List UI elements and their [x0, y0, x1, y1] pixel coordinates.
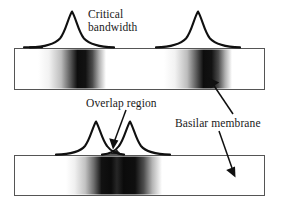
excitation-band-top-right	[164, 50, 232, 89]
figure-basilar-membrane-critical-bandwidth: Critical bandwidth Overlap region Basila…	[0, 0, 283, 204]
label-critical-bandwidth: Critical bandwidth	[88, 8, 137, 33]
label-overlap-region: Overlap region	[86, 97, 157, 110]
label-basilar-membrane: Basilar membrane	[175, 117, 261, 130]
label-critical-bandwidth-line1: Critical	[88, 8, 137, 21]
excitation-curve-top-right	[156, 12, 240, 48]
bottom-panel	[15, 122, 265, 196]
excitation-curve-bottom-right	[102, 122, 170, 155]
excitation-band-bottom-merged	[66, 157, 162, 195]
top-panel	[15, 12, 265, 90]
excitation-band-top-left	[38, 50, 106, 89]
label-critical-bandwidth-line2: bandwidth	[88, 21, 137, 34]
excitation-curve-bottom-left	[56, 122, 124, 155]
